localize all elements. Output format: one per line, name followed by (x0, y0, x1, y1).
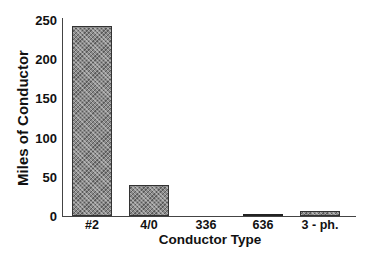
bar-chart: Miles of Conductor Conductor Type 0 50 1… (0, 0, 369, 260)
y-tick-label: 200 (35, 52, 57, 67)
bar-4-0 (129, 185, 169, 216)
y-tick-label: 250 (35, 13, 57, 28)
y-tick-label: 150 (35, 91, 57, 106)
bar-636 (243, 214, 283, 216)
x-tick-label: 636 (233, 218, 293, 232)
bar-2 (72, 26, 112, 216)
x-axis-label: Conductor Type (159, 232, 262, 247)
x-tick-label: #2 (62, 218, 122, 232)
y-axis-label: Miles of Conductor (14, 50, 31, 186)
x-tick-label: 4/0 (119, 218, 179, 232)
x-axis-line (62, 216, 356, 217)
x-tick-label: 3 - ph. (290, 218, 350, 232)
y-tick-label: 100 (35, 130, 57, 145)
y-tick-label: 50 (43, 169, 57, 184)
y-axis-line (62, 18, 63, 216)
x-tick-label: 336 (176, 218, 236, 232)
bar-3-ph (300, 211, 340, 216)
y-tick-label: 0 (50, 209, 57, 224)
